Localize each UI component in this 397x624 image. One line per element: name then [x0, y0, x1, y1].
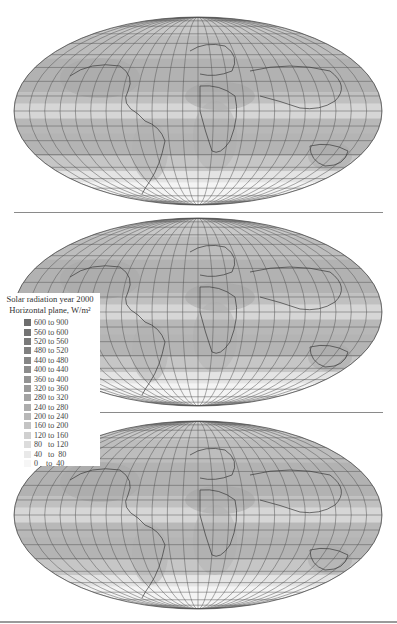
legend-item: 120 to 160 — [24, 431, 100, 440]
legend-swatch — [24, 338, 31, 345]
legend-item: 600 to 900 — [24, 318, 100, 327]
legend-item: 280 to 320 — [24, 393, 100, 402]
panel-separator-1 — [14, 212, 383, 213]
legend-swatch — [24, 357, 31, 364]
legend-item: 80 to 120 — [24, 440, 100, 449]
legend-swatch — [24, 376, 31, 383]
world-map-panel-1 — [0, 16, 397, 206]
legend-swatch — [24, 347, 31, 354]
legend-swatch — [24, 422, 31, 429]
legend-swatch — [24, 460, 31, 467]
legend-swatch — [24, 432, 31, 439]
legend-item: 0 to 40 — [24, 459, 100, 468]
legend-item: 560 to 600 — [24, 327, 100, 336]
legend-item: 440 to 480 — [24, 356, 100, 365]
legend-item: 480 to 520 — [24, 346, 100, 355]
legend-swatch — [24, 319, 31, 326]
legend: Solar radiation year 2000 Horizontal pla… — [0, 293, 100, 466]
legend-item: 320 to 360 — [24, 384, 100, 393]
legend-item: 400 to 440 — [24, 365, 100, 374]
legend-swatch — [24, 329, 31, 336]
legend-items: 600 to 900 560 to 600 520 to 560 480 to … — [0, 318, 100, 468]
legend-item: 40 to 80 — [24, 449, 100, 458]
legend-swatch — [24, 366, 31, 373]
legend-item: 240 to 280 — [24, 403, 100, 412]
legend-title-line1: Solar radiation year 2000 — [0, 293, 100, 304]
legend-item: 200 to 240 — [24, 412, 100, 421]
legend-item: 520 to 560 — [24, 337, 100, 346]
legend-swatch — [24, 385, 31, 392]
legend-item: 160 to 200 — [24, 421, 100, 430]
bottom-rule — [0, 621, 397, 623]
legend-swatch — [24, 441, 31, 448]
legend-swatch — [24, 394, 31, 401]
legend-swatch — [24, 413, 31, 420]
legend-item: 360 to 400 — [24, 374, 100, 383]
legend-title-line2: Horizontal plane, W/m² — [0, 304, 100, 315]
legend-swatch — [24, 451, 31, 458]
panel-separator-2 — [100, 412, 383, 413]
legend-swatch — [24, 404, 31, 411]
